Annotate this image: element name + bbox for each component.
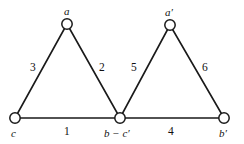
edge-3-line (15, 24, 67, 118)
vertex-b-prime (219, 113, 229, 123)
vertex-label-b-prime: b′ (219, 128, 227, 139)
edge-label-3: 3 (30, 62, 36, 74)
edge-5-line (120, 25, 170, 118)
vertex-c (10, 113, 20, 123)
vertex-label-a: a (64, 6, 70, 17)
vertex-label-c: c (11, 128, 16, 139)
edge-6-line (170, 25, 224, 118)
edges-group (15, 24, 224, 118)
vertex-a-prime (165, 20, 175, 30)
vertex-label-a-prime: a′ (165, 7, 173, 18)
edge-2-line (67, 24, 120, 118)
edge-label-2: 2 (99, 62, 105, 74)
graph-diagram-figure: a a′ c b − c′ b′ 1 2 3 4 5 6 (0, 0, 244, 144)
edge-label-1: 1 (64, 126, 70, 138)
edge-label-6: 6 (202, 62, 208, 74)
edge-label-5: 5 (131, 62, 137, 74)
vertex-a (62, 19, 72, 29)
vertex-label-b-minus-c-prime: b − c′ (104, 128, 130, 139)
vertex-b-minus-c-prime (115, 113, 125, 123)
edge-label-4: 4 (168, 126, 174, 138)
